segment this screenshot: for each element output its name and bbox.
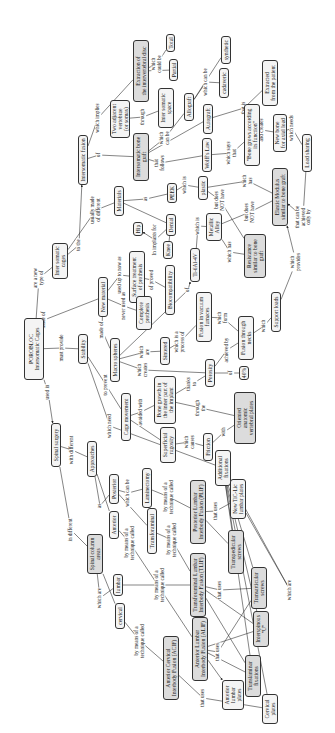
edge-label: to prevent (103, 374, 109, 396)
concept-node-supportloads: Support loads (271, 292, 281, 332)
concept-node-knee: Knee (163, 241, 173, 259)
edge-label: are a new type of (33, 268, 44, 289)
concept-node-newtlc: New TiC-Lic lumbar plates (230, 479, 246, 519)
concept-node-label: Cage movement (123, 399, 129, 436)
concept-node-label: Load sharing (304, 138, 310, 167)
connector-line (160, 156, 202, 163)
concept-node-label: New TiC-Lic lumbar plates (232, 484, 244, 514)
concept-node-interspinous: Interspinous "U" (253, 611, 269, 647)
concept-node-label: Anterior (111, 516, 117, 535)
edge-label: which is a process of (174, 331, 185, 353)
edge-label: which creates (137, 362, 148, 377)
concept-node-label: Interspinous "U" (255, 615, 267, 643)
concept-node-sintered: Sintered (160, 337, 170, 365)
edge-label: thanks to (186, 377, 197, 392)
concept-node-cervicalplates: Cervical plates (262, 694, 278, 724)
edge-label: which are (97, 587, 103, 608)
concept-node-posterior: Posterior (109, 474, 119, 504)
concept-node-anterior: Anterior (109, 511, 119, 539)
concept-node-loadsharing: Load sharing (302, 134, 312, 172)
edge-label: that uses (200, 688, 206, 707)
concept-node-label: cadaveric (221, 72, 227, 93)
concept-node-label: Additional fixations (217, 456, 229, 480)
concept-node-label: Biocompatibility (167, 271, 173, 309)
concept-node-cadaveric: cadaveric (219, 68, 229, 98)
edge-label: that follows (154, 155, 165, 172)
concept-node-laminectomy: Laminectomy (142, 468, 152, 508)
concept-node-label: "Bone grows according its function" (246, 109, 258, 162)
concept-node-label: lumbar (115, 577, 121, 593)
concept-node-lumbar: lumbar (113, 574, 123, 596)
concept-node-friction: Friction (203, 433, 213, 461)
concept-node-autograft: Autograft (203, 104, 213, 134)
concept-node-label: Approaches (89, 446, 95, 473)
concept-node-partial: Partial (169, 59, 178, 81)
concept-node-label: Fusion through necks (240, 321, 252, 355)
concept-node-label: Anterior Cervical Interbody Fusion (ACIF… (165, 640, 177, 696)
edge-label: which form (217, 311, 228, 325)
concept-node-extracted: Extracted from the patient (262, 60, 278, 106)
concept-node-label: plastic (200, 181, 206, 196)
concept-node-label: Oriented anatomic vertebral plates (236, 401, 254, 435)
concept-node-label: Superficial rugosity (162, 433, 174, 458)
concept-node-intbonegraft: Intersomatic bone graft (133, 133, 149, 181)
edge-label: of (228, 370, 234, 375)
edge-label: must provide (59, 334, 65, 362)
concept-node-label: Elastic Modulus similar to bone graft (274, 174, 286, 220)
edge-label: which needs (289, 115, 295, 142)
concept-node-label: Posterior (111, 479, 117, 499)
concept-node-label: Laminectomy (144, 472, 150, 503)
edge-label: which implies (95, 103, 101, 133)
concept-node-label: POROBLOC Intersomatic Cages (28, 327, 40, 370)
edge-label: that uses (217, 580, 223, 599)
edge-label: In implants for (152, 224, 158, 256)
concept-node-cagemove: Cage movement (121, 393, 131, 441)
edge-label: which is (182, 176, 188, 194)
concept-node-label: Partial (171, 63, 177, 78)
concept-node-alif: Anterior Lumbar Interbody Fusion (ALIF) (192, 617, 208, 681)
concept-node-spinalareas: Spinal column areas (87, 534, 103, 574)
edge-label: that uses (213, 501, 219, 520)
concept-node-label: Bone growth in the inner part of the imp… (156, 382, 174, 418)
concept-node-label: Allograft (186, 97, 192, 118)
edge-label: by means of a technique called (163, 480, 174, 515)
concept-node-antlumbar: Anterior lumbar plates (222, 680, 244, 710)
concept-node-allograft: Allograft (184, 93, 194, 121)
concept-node-twoadj: Two adjacent vertebrae (or somas) (110, 100, 130, 138)
edge-label: which says that (226, 141, 237, 165)
connector-line (143, 370, 205, 373)
concept-node-newbone: New bone for axial load (273, 114, 287, 152)
edge-label: by means of a technique called (154, 568, 165, 603)
concept-node-bonegrowth: Bone growth in the inner part of the imp… (154, 376, 176, 424)
edge-label: and creates (259, 118, 265, 142)
concept-node-label: Anterior lumbar plates (224, 686, 242, 705)
concept-node-oriented: Oriented anatomic vertebral plates (234, 392, 256, 444)
connector-line (124, 203, 166, 222)
concept-node-superficial: Superficial rugosity (160, 427, 176, 463)
concept-node-tlif: Transforaminal Lumbar Interbody Fusion (… (190, 553, 206, 617)
connector-line (149, 122, 203, 153)
concept-node-acif: Anterior Cervical Interbody Fusion (ACIF… (163, 636, 179, 700)
concept-node-elastic: Elastic Modulus similar to bone graft (272, 168, 288, 226)
concept-node-label: Anterior Lumbar Interbody Fusion (ALIF) (194, 621, 206, 677)
edge-label: achieved by (224, 337, 230, 363)
edge-label: made of (99, 321, 105, 339)
concept-node-label: Autograft (205, 108, 211, 130)
edge-label: with (221, 427, 227, 437)
edge-label: of (96, 152, 102, 157)
concept-node-stability: Stability (78, 334, 88, 364)
connector-line (208, 660, 222, 680)
connector-line (206, 591, 253, 624)
concept-node-ti: Ti-6Al-4V (190, 248, 200, 282)
edge-label: to the (76, 239, 82, 252)
concept-node-transforaminal: Transforaminal (147, 508, 157, 554)
edge-label: which can be (159, 131, 170, 145)
concept-node-label: PEEK (169, 186, 175, 200)
edge-label: used in (45, 384, 51, 400)
concept-node-complete: Complete prothesis (136, 296, 152, 330)
concept-node-cervical: cervical (115, 603, 125, 629)
concept-node-materials: Materials (114, 186, 124, 216)
concept-node-spinalsurgery: Spinal surgery (51, 423, 61, 467)
concept-node-label: Macro spheres (112, 344, 118, 377)
concept-node-label: Ti-6Al-4V (192, 253, 198, 277)
